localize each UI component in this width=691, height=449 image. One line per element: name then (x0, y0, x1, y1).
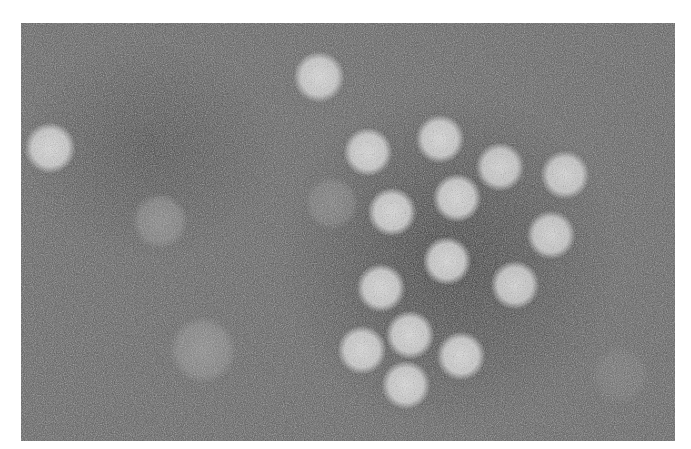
micrograph-canvas (21, 23, 675, 441)
film-grain-light (21, 23, 675, 441)
electron-micrograph (21, 23, 675, 441)
